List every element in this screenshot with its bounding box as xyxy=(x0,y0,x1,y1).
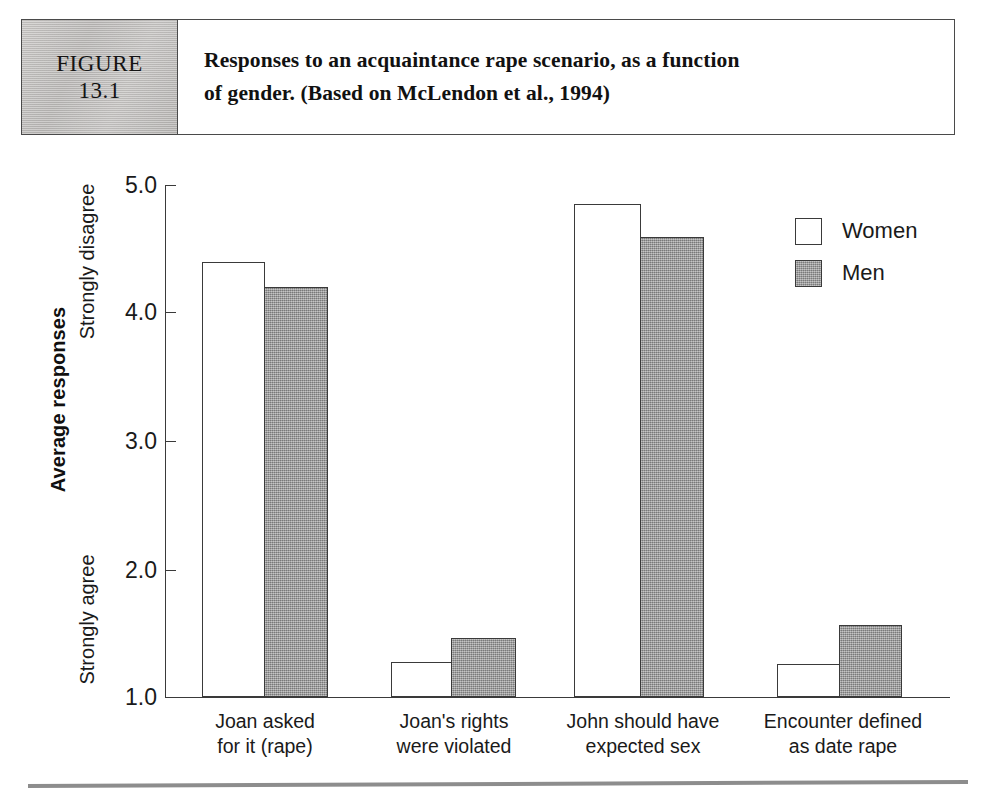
bar-men-joan-asked-for-it xyxy=(264,287,328,697)
x-category-label-2-line-2: were violated xyxy=(357,734,551,759)
legend-label-men: Men xyxy=(842,260,885,286)
y-tick-mark-2 xyxy=(165,570,176,571)
bar-women-john-expected-sex xyxy=(574,204,641,697)
bar-chart: Average responses Strongly disagree Stro… xyxy=(0,0,982,801)
legend-item-men: Men xyxy=(795,255,917,291)
y-tick-label-4: 4.0 xyxy=(95,299,157,326)
y-tick-mark-5 xyxy=(165,185,176,186)
y-tick-label-5: 5.0 xyxy=(95,172,157,199)
x-category-label-1-line-2: for it (rape) xyxy=(168,734,362,759)
x-category-label-4-line-2: as date rape xyxy=(740,734,946,759)
y-axis-line xyxy=(165,185,166,698)
x-category-label-1-line-1: Joan asked xyxy=(215,710,315,732)
x-category-label-4-line-1: Encounter defined xyxy=(764,710,922,732)
x-category-label-2: Joan's rights were violated xyxy=(357,709,551,759)
y-axis-title: Average responses xyxy=(47,290,70,510)
y-tick-mark-3 xyxy=(165,441,176,442)
y-tick-label-2: 2.0 xyxy=(95,557,157,584)
x-category-label-1: Joan asked for it (rape) xyxy=(168,709,362,759)
y-tick-label-1: 1.0 xyxy=(95,684,157,711)
chart-legend: Women Men xyxy=(795,213,917,297)
y-tick-label-3: 3.0 xyxy=(95,428,157,455)
x-category-label-3-line-2: expected sex xyxy=(543,734,743,759)
bar-women-joan-asked-for-it xyxy=(202,262,265,697)
bar-men-encounter-date-rape xyxy=(839,625,902,697)
legend-swatch-men-icon xyxy=(795,260,822,287)
bar-women-joans-rights-violated xyxy=(391,662,452,697)
bar-men-john-expected-sex xyxy=(640,237,704,697)
y-tick-mark-4 xyxy=(165,312,176,313)
x-category-label-3-line-1: John should have xyxy=(567,710,720,732)
x-category-label-3: John should have expected sex xyxy=(543,709,743,759)
legend-swatch-women-icon xyxy=(795,218,822,245)
x-axis-line xyxy=(165,697,950,698)
x-category-label-2-line-1: Joan's rights xyxy=(400,710,509,732)
bar-men-joans-rights-violated xyxy=(451,638,516,697)
x-category-label-4: Encounter defined as date rape xyxy=(740,709,946,759)
bar-women-encounter-date-rape xyxy=(777,664,840,697)
legend-label-women: Women xyxy=(842,218,917,244)
legend-item-women: Women xyxy=(795,213,917,249)
